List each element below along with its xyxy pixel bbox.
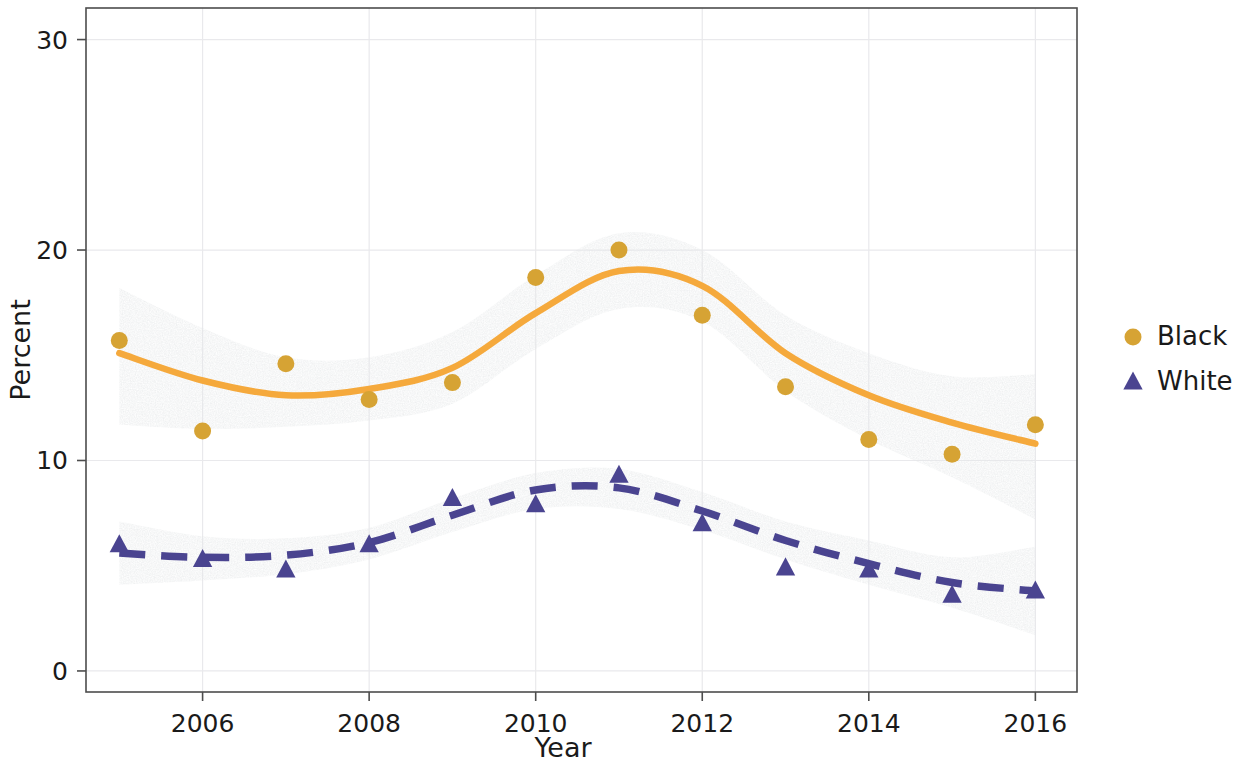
data-point-marker	[527, 269, 544, 286]
data-point-marker	[1027, 416, 1044, 433]
chart-svg: 3020100 200620082010201220142016 Percent…	[0, 0, 1254, 767]
data-point-marker	[111, 332, 128, 349]
y-tick-label: 30	[36, 26, 68, 55]
x-tick-label: 2016	[1004, 709, 1068, 738]
legend-item-label: Black	[1157, 321, 1227, 351]
y-axis-title: Percent	[5, 299, 36, 401]
data-point-marker	[944, 446, 961, 463]
legend-item-label: White	[1157, 366, 1233, 396]
chart-figure: 3020100 200620082010201220142016 Percent…	[0, 0, 1254, 767]
x-axis-title: Year	[533, 732, 592, 763]
y-tick-label: 20	[36, 236, 68, 265]
x-tick-label: 2006	[171, 709, 235, 738]
x-tick-label: 2012	[670, 709, 734, 738]
data-point-marker	[694, 307, 711, 324]
y-tick-label: 0	[52, 657, 68, 686]
x-tick-label: 2008	[337, 709, 401, 738]
data-point-marker	[777, 378, 794, 395]
x-tick-label: 2014	[837, 709, 901, 738]
data-point-marker	[194, 423, 211, 440]
data-point-marker	[610, 242, 627, 259]
y-tick-label: 10	[36, 446, 68, 475]
data-point-marker	[860, 431, 877, 448]
data-point-marker	[361, 391, 378, 408]
data-point-marker	[277, 355, 294, 372]
data-point-marker	[444, 374, 461, 391]
legend-marker-circle-icon	[1125, 329, 1142, 346]
